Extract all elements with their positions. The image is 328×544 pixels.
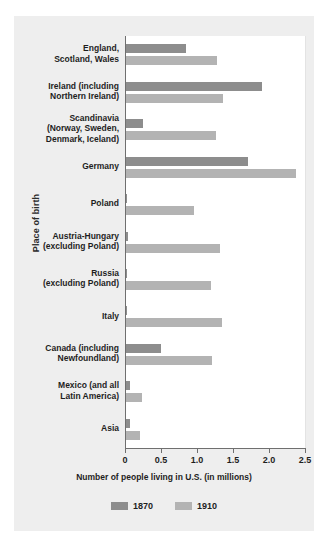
bar-group	[126, 381, 142, 402]
category-label: Asia	[14, 423, 119, 434]
category-label: Canada (includingNewfoundland)	[14, 343, 119, 364]
bar-1910	[126, 431, 140, 440]
category-label: Mexico (and allLatin America)	[14, 380, 119, 401]
bar-1870	[126, 157, 248, 166]
bar-1910	[126, 281, 211, 290]
bar-1870	[126, 381, 130, 390]
legend-item[interactable]: 1870	[111, 501, 153, 511]
bar-group	[126, 306, 222, 327]
legend-label: 1870	[133, 501, 153, 511]
x-tick	[305, 448, 306, 453]
chart-figure: Place of birth England,Scotland, WalesIr…	[0, 0, 328, 544]
bar-1870	[126, 269, 127, 278]
category-label: Scandinavia(Norway, Sweden,Denmark, Icel…	[14, 113, 119, 145]
bar-group	[126, 157, 296, 178]
bar-1910	[126, 318, 222, 327]
category-label: Poland	[14, 198, 119, 209]
bar-1870	[126, 119, 143, 128]
x-tick	[233, 448, 234, 453]
category-label: Germany	[14, 161, 119, 172]
bar-1910	[126, 206, 194, 215]
x-tick-label: 2.5	[290, 455, 320, 465]
bar-group	[126, 419, 140, 440]
bar-group	[126, 269, 211, 290]
legend-label: 1910	[197, 501, 217, 511]
bar-1910	[126, 94, 223, 103]
bar-1870	[126, 82, 262, 91]
bar-group	[126, 119, 216, 140]
x-axis-line	[125, 448, 305, 449]
bar-1870	[126, 419, 130, 428]
x-tick	[161, 448, 162, 453]
bar-group	[126, 82, 262, 103]
bar-1870	[126, 344, 161, 353]
chart-legend: 18701910	[14, 501, 314, 511]
bar-1910	[126, 131, 216, 140]
bar-1910	[126, 56, 217, 65]
bar-1870	[126, 194, 127, 203]
bar-1870	[126, 44, 186, 53]
category-label: Russia(excluding Poland)	[14, 268, 119, 289]
bar-group	[126, 194, 194, 215]
x-tick-label: 0.5	[146, 455, 176, 465]
bar-group	[126, 344, 212, 365]
legend-swatch-icon	[175, 502, 192, 510]
bar-1910	[126, 244, 220, 253]
category-label: Italy	[14, 311, 119, 322]
bar-group	[126, 232, 220, 253]
x-tick-label: 0	[110, 455, 140, 465]
y-axis-title: Place of birth	[31, 163, 41, 283]
x-tick-label: 1.0	[182, 455, 212, 465]
x-tick	[269, 448, 270, 453]
x-tick	[197, 448, 198, 453]
bar-1870	[126, 306, 127, 315]
category-label: Ireland (includingNorthern Ireland)	[14, 81, 119, 102]
bar-1910	[126, 169, 296, 178]
x-tick-label: 2.0	[254, 455, 284, 465]
category-label: England,Scotland, Wales	[14, 43, 119, 64]
bar-1910	[126, 356, 212, 365]
bar-group	[126, 44, 217, 65]
x-tick-label: 1.5	[218, 455, 248, 465]
legend-item[interactable]: 1910	[175, 501, 217, 511]
legend-swatch-icon	[111, 502, 128, 510]
x-axis-title: Number of people living in U.S. (in mill…	[14, 472, 314, 482]
bar-1910	[126, 393, 142, 402]
x-tick	[125, 448, 126, 453]
bar-1870	[126, 232, 128, 241]
category-label: Austria-Hungary(excluding Poland)	[14, 231, 119, 252]
